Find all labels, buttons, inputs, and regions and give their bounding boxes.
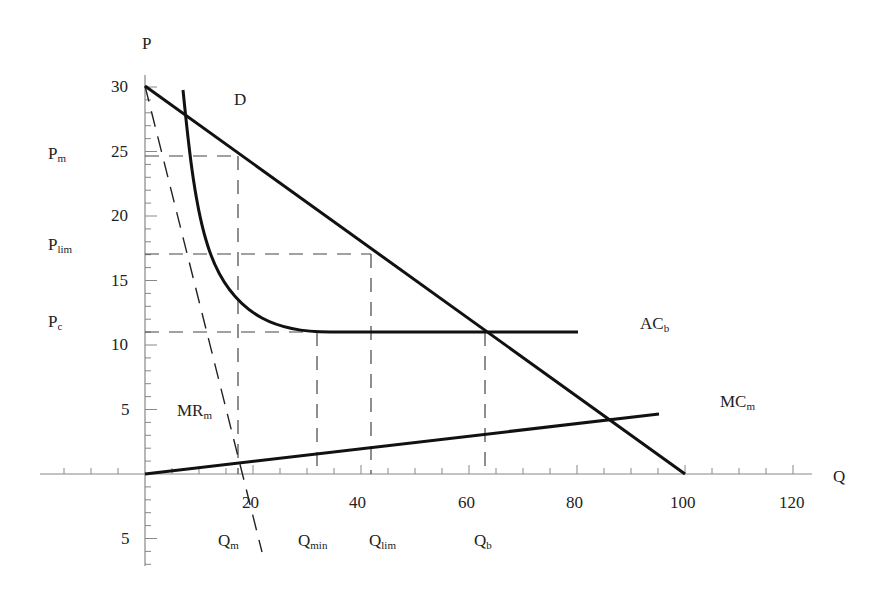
y-axis-title: P	[142, 35, 151, 52]
demand-curve	[145, 86, 685, 474]
qlim-label-sub: lim	[381, 539, 396, 551]
qmin-label-main: Q	[298, 531, 310, 550]
mc-label-main: MC	[720, 392, 746, 411]
y-tick-15: 15	[111, 272, 128, 289]
mc-curve	[145, 414, 659, 474]
ac-label-sub: b	[664, 322, 670, 334]
mc-label-sub: m	[746, 400, 755, 412]
x-tick-80: 80	[566, 494, 583, 511]
pc-label: Pc	[48, 313, 62, 332]
qmin-label: Qmin	[298, 532, 327, 551]
qm-label-sub: m	[230, 539, 239, 551]
y-tick-neg5: 5	[121, 530, 130, 547]
qb-label-main: Q	[474, 531, 486, 550]
mc-label: MCm	[720, 393, 755, 412]
y-tick-5: 5	[121, 401, 130, 418]
pc-label-sub: c	[57, 320, 62, 332]
y-ticks	[145, 87, 157, 564]
x-axis-title: Q	[833, 468, 845, 485]
demand-label: D	[234, 91, 246, 108]
pm-label: Pm	[48, 145, 66, 164]
y-tick-10: 10	[111, 336, 128, 353]
ac-label-main: AC	[640, 314, 664, 333]
mr-label-main: MR	[177, 401, 203, 420]
axes	[40, 75, 812, 566]
pm-label-sub: m	[57, 152, 66, 164]
plim-label: Plim	[48, 236, 72, 255]
x-tick-100: 100	[670, 494, 696, 511]
plim-label-sub: lim	[57, 243, 72, 255]
mr-label: MRm	[177, 402, 212, 421]
qlim-label-main: Q	[369, 531, 381, 550]
ac-curve	[183, 90, 578, 332]
y-tick-25: 25	[111, 143, 128, 160]
qb-label: Qb	[474, 532, 492, 551]
mr-label-sub: m	[203, 409, 212, 421]
qm-label-main: Q	[218, 531, 230, 550]
x-tick-120: 120	[779, 494, 805, 511]
x-tick-40: 40	[349, 494, 366, 511]
y-tick-30: 30	[111, 78, 128, 95]
x-tick-60: 60	[458, 494, 475, 511]
ac-label: ACb	[640, 315, 669, 334]
qlim-label: Qlim	[369, 532, 396, 551]
qb-label-sub: b	[486, 539, 492, 551]
economics-chart	[0, 0, 891, 594]
qm-label: Qm	[218, 532, 239, 551]
y-tick-20: 20	[111, 207, 128, 224]
x-tick-20: 20	[242, 494, 259, 511]
qmin-label-sub: min	[310, 539, 327, 551]
